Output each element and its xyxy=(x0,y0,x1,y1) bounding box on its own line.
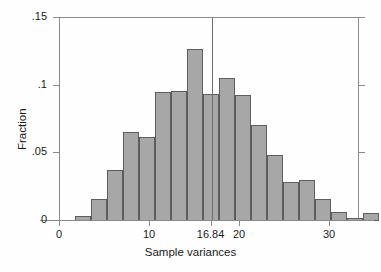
plot-area xyxy=(59,17,359,220)
x-axis-tick-label: 10 xyxy=(143,228,155,240)
histogram-bar xyxy=(299,180,315,221)
histogram-bar xyxy=(155,92,171,221)
y-axis-tick-label: .15 xyxy=(3,10,47,22)
right-frame-tick xyxy=(359,152,365,153)
y-axis-tick-label: .1 xyxy=(3,78,47,90)
right-frame-tick xyxy=(359,17,365,18)
x-axis-tick-label: 30 xyxy=(323,228,335,240)
histogram-bar xyxy=(235,95,251,221)
x-axis-baseline xyxy=(40,220,374,221)
histogram-bar xyxy=(251,125,267,221)
right-frame-tick xyxy=(359,85,365,86)
x-axis-label: Sample variances xyxy=(0,246,381,258)
y-axis-tick xyxy=(53,17,59,18)
histogram-bar xyxy=(171,91,187,221)
histogram-figure: 0.05.1.15 01016.842030 Fraction Sample v… xyxy=(0,0,381,272)
x-axis-tick xyxy=(59,220,60,226)
histogram-bar xyxy=(267,155,283,221)
histogram-bar xyxy=(107,170,123,221)
y-axis-label: Fraction xyxy=(16,108,28,150)
x-axis-tick xyxy=(239,220,240,226)
y-axis-tick-label: 0 xyxy=(3,213,47,225)
x-axis-tick xyxy=(329,220,330,226)
y-axis-tick xyxy=(53,85,59,86)
bars-layer xyxy=(60,18,360,221)
histogram-bar xyxy=(91,199,107,221)
x-axis-tick-label: 0 xyxy=(56,228,62,240)
histogram-bar xyxy=(139,137,155,221)
histogram-bar xyxy=(315,199,331,221)
histogram-bar xyxy=(219,78,235,221)
reference-line-16-84 xyxy=(212,18,213,221)
histogram-bar xyxy=(283,182,299,221)
histogram-bar xyxy=(187,49,203,221)
histogram-bar xyxy=(123,132,139,221)
x-axis-tick-label: 16.84 xyxy=(197,228,225,240)
y-axis-tick xyxy=(53,152,59,153)
x-axis-tick-label: 20 xyxy=(233,228,245,240)
x-axis-tick xyxy=(211,220,212,226)
x-axis-tick xyxy=(149,220,150,226)
